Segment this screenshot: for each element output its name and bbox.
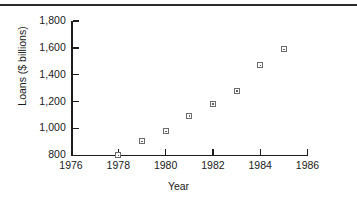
y-axis-title: Loans ($ billions) (16, 6, 28, 126)
data-point (186, 113, 192, 119)
data-point (210, 101, 216, 107)
x-tick (307, 149, 308, 155)
chart-figure: 8001,0001,2001,4001,6001,800 19761978198… (0, 0, 357, 202)
data-point (139, 138, 145, 144)
x-tick (212, 149, 213, 155)
y-tick-label: 1,800 (39, 14, 66, 26)
data-point (281, 46, 287, 52)
y-tick-label: 1,600 (39, 41, 66, 53)
x-tick-label: 1986 (288, 159, 328, 171)
y-tick-label: 1,000 (39, 121, 66, 133)
y-tick (73, 128, 79, 129)
top-horizontal-rule (0, 4, 357, 6)
x-tick-label: 1976 (51, 159, 91, 171)
y-tick-label: 1,200 (39, 95, 66, 107)
x-axis-title: Year (0, 180, 357, 192)
x-tick (165, 149, 166, 155)
data-point (257, 62, 263, 68)
x-tick-label: 1980 (146, 159, 186, 171)
data-point (234, 88, 240, 94)
x-axis-line (71, 155, 308, 157)
y-tick (73, 74, 79, 75)
data-point (115, 152, 121, 158)
y-tick-label: 1,400 (39, 68, 66, 80)
x-tick-label: 1982 (193, 159, 233, 171)
x-tick-label: 1978 (98, 159, 138, 171)
y-tick (73, 20, 79, 21)
x-tick-label: 1984 (240, 159, 280, 171)
y-tick (73, 101, 79, 102)
data-point (163, 128, 169, 134)
y-tick (73, 47, 79, 48)
x-tick (260, 149, 261, 155)
y-axis-line (71, 21, 73, 156)
